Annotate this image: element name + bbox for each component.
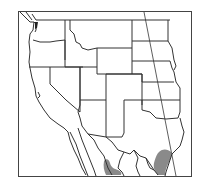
range-map bbox=[0, 0, 198, 190]
map-svg bbox=[0, 0, 198, 190]
